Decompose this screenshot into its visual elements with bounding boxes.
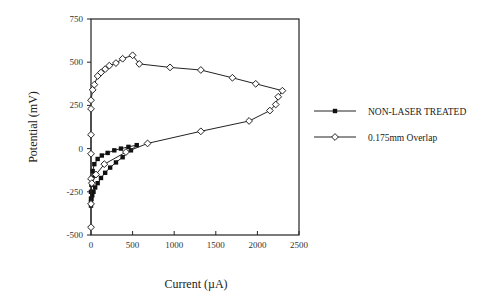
diamond-marker: [246, 118, 253, 125]
diamond-marker: [88, 200, 95, 207]
x-tick-label: 0: [89, 240, 94, 250]
diamond-marker: [88, 150, 95, 157]
square-marker: [333, 109, 337, 113]
square-marker: [93, 185, 97, 189]
diamond-marker: [229, 74, 236, 81]
square-marker: [95, 157, 99, 161]
diamond-marker: [88, 224, 95, 231]
x-tick-label: 2000: [248, 240, 267, 250]
square-marker: [112, 148, 116, 152]
square-marker: [108, 165, 112, 169]
legend-label: 0.175mm Overlap: [368, 133, 437, 143]
x-tick-label: 1500: [207, 240, 226, 250]
square-marker: [119, 146, 123, 150]
diamond-marker: [123, 149, 130, 156]
x-axis: 05001000150020002500: [89, 231, 309, 250]
chart-canvas: 7505002500-250-500 05001000150020002500 …: [0, 0, 488, 308]
y-tick-label: 250: [70, 100, 84, 110]
diamond-marker: [144, 140, 151, 147]
square-marker: [99, 176, 103, 180]
y-tick-label: 750: [70, 14, 84, 24]
diamond-marker: [113, 60, 120, 67]
legend-item: 0.175mm Overlap: [314, 133, 437, 143]
plot-border: [91, 19, 299, 235]
square-marker: [100, 153, 104, 157]
y-axis-title: Potential (mV): [26, 91, 40, 163]
data-series: [88, 52, 286, 231]
diamond-marker: [88, 131, 95, 138]
diamond-marker: [88, 97, 95, 104]
series-line: [91, 55, 282, 227]
square-marker: [105, 151, 109, 155]
y-tick-label: -250: [67, 187, 84, 197]
diamond-marker: [332, 134, 339, 141]
diamond-marker: [119, 55, 126, 62]
diamond-marker: [167, 64, 174, 71]
x-tick-label: 500: [126, 240, 140, 250]
square-marker: [95, 181, 99, 185]
diamond-marker: [88, 105, 95, 112]
square-marker: [120, 155, 124, 159]
diamond-marker: [197, 67, 204, 74]
x-tick-label: 1000: [165, 240, 184, 250]
y-axis: 7505002500-250-500: [67, 14, 92, 240]
y-tick-label: 0: [79, 144, 84, 154]
square-marker: [103, 171, 107, 175]
square-marker: [114, 160, 118, 164]
y-tick-label: 500: [70, 57, 84, 67]
y-tick-label: -500: [67, 230, 84, 240]
diamond-marker: [275, 93, 282, 100]
x-tick-label: 2500: [290, 240, 309, 250]
plot-frame: [91, 19, 299, 235]
diamond-marker: [197, 128, 204, 135]
legend: NON-LASER TREATED0.175mm Overlap: [314, 107, 466, 143]
legend-label: NON-LASER TREATED: [368, 107, 466, 117]
square-marker: [92, 162, 96, 166]
legend-item: NON-LASER TREATED: [314, 107, 466, 117]
diamond-marker: [279, 87, 286, 94]
x-axis-title: Current (µA): [164, 277, 227, 291]
diamond-marker: [252, 80, 259, 87]
series-0-175mm-overlap: [88, 52, 286, 231]
